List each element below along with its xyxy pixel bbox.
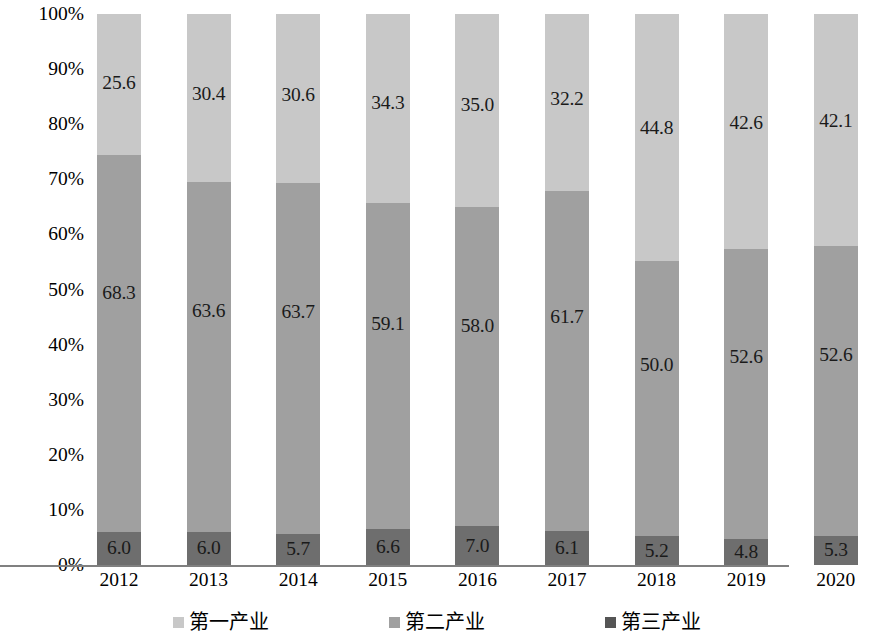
x-axis-tick-label: 2018 <box>635 570 679 590</box>
bar-column[interactable]: 30.663.75.7 <box>276 14 320 565</box>
y-axis-tick-label: 70% <box>48 170 84 190</box>
chart-legend: 第一产业第二产业第三产业 <box>0 606 874 637</box>
bar-segment-value-label: 5.2 <box>645 541 669 561</box>
bar-segment[interactable]: 50.0 <box>635 261 679 537</box>
bar-segment[interactable]: 35.0 <box>455 14 499 207</box>
legend-item-label: 第一产业 <box>189 612 269 632</box>
bar-segment-value-label: 7.0 <box>466 536 490 556</box>
x-axis-tick-label: 2019 <box>724 570 768 590</box>
bar-segment-value-label: 5.7 <box>286 540 310 560</box>
bar-segment[interactable]: 4.8 <box>724 539 768 565</box>
bar-segment-value-label: 25.6 <box>102 73 135 93</box>
x-axis-tick-label: 2020 <box>814 570 858 590</box>
x-axis-tick-label: 2013 <box>187 570 231 590</box>
bar-segment[interactable]: 5.2 <box>635 536 679 565</box>
y-axis-tick-label: 80% <box>48 114 84 134</box>
bar-segment-value-label: 30.4 <box>192 84 225 104</box>
y-axis-tick-label: 20% <box>48 445 84 465</box>
legend-swatch-icon <box>389 617 400 628</box>
bar-segment[interactable]: 7.0 <box>455 526 499 565</box>
y-axis-tick-label: 30% <box>48 390 84 410</box>
y-axis-tick-label: 60% <box>48 225 84 245</box>
bar-segment[interactable]: 6.0 <box>187 532 231 565</box>
bar-segment-value-label: 42.6 <box>730 113 763 133</box>
bar-segment-value-label: 6.6 <box>376 537 400 557</box>
y-axis-tick-label: 90% <box>48 59 84 79</box>
legend-item[interactable]: 第二产业 <box>389 612 485 632</box>
bar-segment[interactable]: 61.7 <box>545 191 589 531</box>
bar-segment-value-label: 58.0 <box>461 316 494 336</box>
bar-segment[interactable]: 52.6 <box>724 249 768 539</box>
x-axis: 201220132014201520162017201820192020 <box>92 568 867 598</box>
bar-segment-value-label: 6.1 <box>555 538 579 558</box>
bar-segment[interactable]: 34.3 <box>366 14 410 203</box>
bar-segment-value-label: 68.3 <box>102 283 135 303</box>
x-axis-tick-label: 2016 <box>455 570 499 590</box>
y-axis-tick-label: 100% <box>39 4 85 24</box>
bar-segment-value-label: 6.0 <box>107 539 131 559</box>
bar-segment-value-label: 44.8 <box>640 118 673 138</box>
x-axis-tick-label: 2015 <box>366 570 410 590</box>
bar-segment-value-label: 63.6 <box>192 301 225 321</box>
bar-segment[interactable]: 30.4 <box>187 14 231 182</box>
bar-segment[interactable]: 63.7 <box>276 183 320 534</box>
bar-segment[interactable]: 5.3 <box>814 536 858 565</box>
bar-segment[interactable]: 44.8 <box>635 14 679 261</box>
bar-segment[interactable]: 42.1 <box>814 14 858 246</box>
bar-segment[interactable]: 68.3 <box>97 155 141 532</box>
plot-area: 25.668.36.030.463.66.030.663.75.734.359.… <box>92 14 867 565</box>
y-axis-tick-label: 10% <box>48 500 84 520</box>
y-axis: 0%10%20%30%40%50%60%70%80%90%100% <box>0 0 92 580</box>
x-axis-tick-label: 2017 <box>545 570 589 590</box>
bar-column[interactable]: 35.058.07.0 <box>455 14 499 565</box>
bar-segment-value-label: 50.0 <box>640 355 673 375</box>
legend-swatch-icon <box>173 617 184 628</box>
bar-segment[interactable]: 32.2 <box>545 14 589 191</box>
bar-column[interactable]: 42.152.65.3 <box>814 14 858 565</box>
y-axis-tick-label: 50% <box>48 280 84 300</box>
legend-item[interactable]: 第三产业 <box>605 612 701 632</box>
bar-segment-value-label: 52.6 <box>730 347 763 367</box>
bar-segment-value-label: 61.7 <box>550 307 583 327</box>
bar-segment[interactable]: 5.7 <box>276 534 320 565</box>
bar-column[interactable]: 25.668.36.0 <box>97 14 141 565</box>
legend-item-label: 第二产业 <box>405 612 485 632</box>
bar-segment[interactable]: 58.0 <box>455 207 499 527</box>
legend-item-label: 第三产业 <box>621 612 701 632</box>
bar-segment[interactable]: 25.6 <box>97 14 141 155</box>
bar-segment-value-label: 5.3 <box>824 541 848 561</box>
bar-segment-value-label: 59.1 <box>371 314 404 334</box>
y-axis-tick-label: 40% <box>48 335 84 355</box>
bar-segment[interactable]: 59.1 <box>366 203 410 529</box>
bar-segment[interactable]: 52.6 <box>814 246 858 536</box>
legend-item[interactable]: 第一产业 <box>173 612 269 632</box>
bar-column[interactable]: 44.850.05.2 <box>635 14 679 565</box>
bar-segment[interactable]: 42.6 <box>724 14 768 249</box>
x-axis-tick-label: 2012 <box>97 570 141 590</box>
legend-swatch-icon <box>605 617 616 628</box>
bar-segment[interactable]: 6.6 <box>366 529 410 565</box>
bar-column[interactable]: 30.463.66.0 <box>187 14 231 565</box>
bar-segment[interactable]: 6.1 <box>545 531 589 565</box>
bar-segment-value-label: 52.6 <box>819 345 852 365</box>
bar-column[interactable]: 42.652.64.8 <box>724 14 768 565</box>
bar-segment-value-label: 4.8 <box>734 542 758 562</box>
x-axis-tick-label: 2014 <box>276 570 320 590</box>
bar-segment-value-label: 63.7 <box>282 302 315 322</box>
stacked-bar-chart: 0%10%20%30%40%50%60%70%80%90%100% 25.668… <box>0 0 874 637</box>
bar-segment-value-label: 35.0 <box>461 95 494 115</box>
bar-segment-value-label: 42.1 <box>819 111 852 131</box>
bar-segment[interactable]: 30.6 <box>276 14 320 183</box>
bar-segment-value-label: 30.6 <box>282 85 315 105</box>
bar-segment[interactable]: 63.6 <box>187 182 231 532</box>
bar-segment-value-label: 34.3 <box>371 93 404 113</box>
bar-column[interactable]: 34.359.16.6 <box>366 14 410 565</box>
x-axis-line <box>0 565 789 567</box>
bar-column[interactable]: 32.261.76.1 <box>545 14 589 565</box>
bar-segment-value-label: 32.2 <box>550 89 583 109</box>
bar-segment-value-label: 6.0 <box>197 539 221 559</box>
bar-segment[interactable]: 6.0 <box>97 532 141 565</box>
